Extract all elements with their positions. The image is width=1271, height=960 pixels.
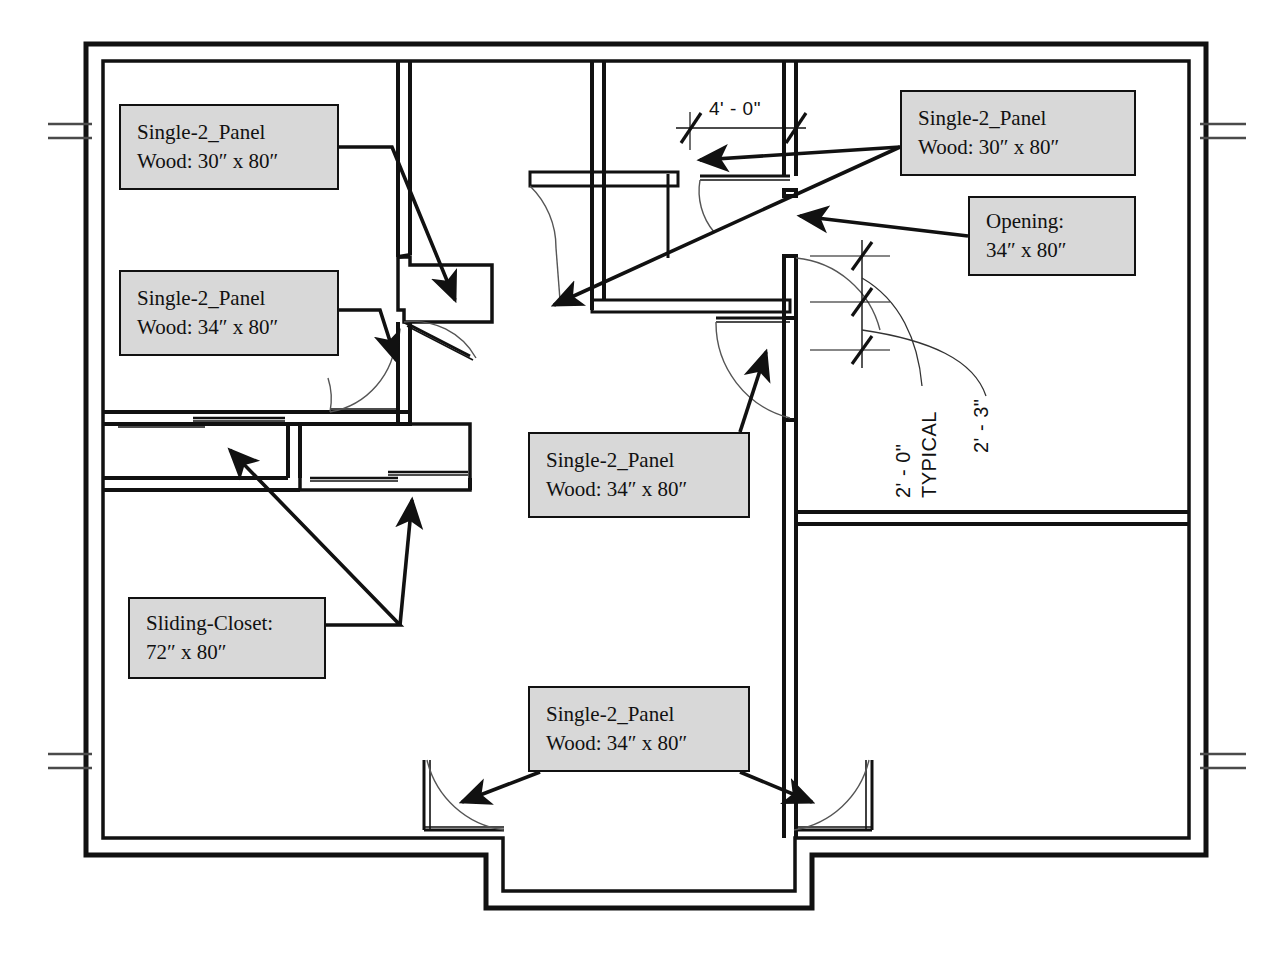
wall-v-398 (398, 61, 410, 257)
door-entry-left (424, 760, 504, 830)
callout-single-2-panel-34-entry[interactable]: Single-2_Panel Wood: 34″ x 80″ (528, 686, 750, 772)
wall-v-398-lower (398, 322, 410, 412)
callout-single-2-panel-34-center[interactable]: Single-2_Panel Wood: 34″ x 80″ (528, 432, 750, 518)
callout-line-1: Single-2_Panel (137, 118, 337, 147)
callout-line-2: 34″ x 80″ (986, 236, 1134, 265)
dimension-label-4-0: 4' - 0" (709, 98, 761, 120)
callout-single-2-panel-34-left[interactable]: Single-2_Panel Wood: 34″ x 80″ (119, 270, 339, 356)
callout-single-2-panel-30-top-right[interactable]: Single-2_Panel Wood: 30″ x 80″ (900, 90, 1136, 176)
door-mid-top-30 (530, 186, 560, 300)
callout-line-2: Wood: 34″ x 80″ (137, 313, 337, 342)
wall-h-mid-300 (592, 300, 790, 312)
callout-line-1: Single-2_Panel (546, 446, 748, 475)
leader-nw-bottom (339, 310, 396, 360)
dimension-label-2-3: 2' - 3" (970, 399, 993, 453)
floor-plan-drawing: Single-2_Panel Wood: 30″ x 80″ Single-2_… (0, 0, 1271, 960)
wall-v-784-lower (784, 318, 796, 838)
callout-line-2: Wood: 30″ x 80″ (918, 133, 1134, 162)
leader-entry-left (462, 772, 540, 802)
door-center-34 (716, 318, 790, 418)
callout-line-1: Single-2_Panel (137, 284, 337, 313)
callout-sliding-closet-72[interactable]: Sliding-Closet: 72″ x 80″ (128, 597, 326, 679)
leader-entry-right (740, 772, 812, 802)
wall-closet-right (300, 424, 470, 490)
door-nw-closet (404, 321, 476, 360)
dimension-label-2-0: 2' - 0" (892, 444, 915, 498)
callout-line-1: Single-2_Panel (918, 104, 1134, 133)
callout-line-2: Wood: 34″ x 80″ (546, 475, 748, 504)
leader-closet-right (400, 500, 412, 625)
door-entry-right (794, 760, 872, 830)
callout-line-2: Wood: 34″ x 80″ (546, 729, 748, 758)
callout-opening-34[interactable]: Opening: 34″ x 80″ (968, 196, 1136, 276)
wall-h-left-412-cap (398, 412, 410, 424)
leader-ne-a (700, 147, 900, 160)
callout-line-1: Sliding-Closet: (146, 609, 324, 638)
wall-v-784-top (784, 61, 796, 176)
wall-closet-nw (398, 257, 492, 322)
wall-h-right-512 (796, 512, 1189, 524)
callout-single-2-panel-30-top-left[interactable]: Single-2_Panel Wood: 30″ x 80″ (119, 104, 339, 190)
sliding-doors-right-closet (310, 472, 468, 481)
dim-line-right-stack (810, 240, 890, 368)
dim-leaders-right (862, 278, 986, 396)
callout-line-2: Wood: 30″ x 80″ (137, 147, 337, 176)
leader-opening (800, 216, 968, 236)
wall-v-closet-divider (288, 424, 300, 478)
callout-line-1: Single-2_Panel (546, 700, 748, 729)
callout-line-1: Opening: (986, 207, 1134, 236)
dimension-label-typical: TYPICAL (918, 411, 941, 498)
callout-line-2: 72″ x 80″ (146, 638, 324, 667)
